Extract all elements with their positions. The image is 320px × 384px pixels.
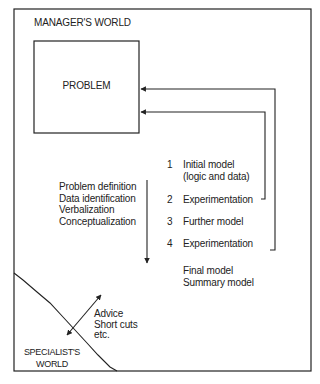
step-text: (logic and data) [183, 171, 250, 183]
step-number: 2 [167, 194, 173, 206]
step-number: 3 [167, 216, 173, 228]
manager-activities-list: Problem definition Data identification V… [59, 181, 136, 228]
feedback-arrow-inner [141, 112, 265, 199]
specialist-input-item: Advice [94, 309, 138, 320]
activity-item: Data identification [59, 193, 136, 205]
step-number: 1 [167, 159, 173, 171]
activity-item: Problem definition [59, 181, 136, 193]
specialist-inputs: Advice Short cuts etc. [94, 309, 138, 341]
specialist-input-item: etc. [94, 330, 138, 341]
final-output-item: Summary model [183, 277, 254, 289]
specialist-world-line: WORLD [20, 358, 84, 370]
final-output-item: Final model [183, 265, 254, 277]
activity-item: Conceptualization [59, 216, 136, 228]
specialist-world-label: SPECIALIST'S WORLD [20, 346, 84, 370]
step-text: Experimentation [183, 194, 253, 206]
step-number: 4 [167, 238, 173, 250]
diagram-lines [0, 0, 320, 384]
step-text: Further model [183, 216, 243, 228]
final-outputs: Final model Summary model [183, 265, 254, 288]
step-text: Initial model [183, 159, 234, 171]
problem-label: PROBLEM [34, 80, 139, 92]
specialist-world-line: SPECIALIST'S [20, 346, 84, 358]
activity-item: Verbalization [59, 204, 136, 216]
step-text: Experimentation [183, 238, 253, 250]
manager-world-label: MANAGER'S WORLD [34, 17, 131, 29]
